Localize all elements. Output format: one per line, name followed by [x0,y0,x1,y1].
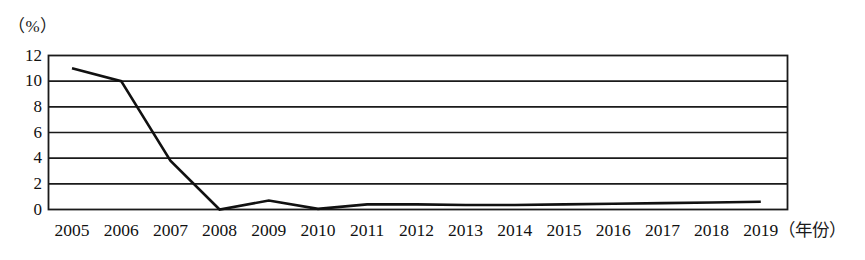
x-axis-tick-label: 2013 [448,222,483,240]
x-axis-tick-label: 2005 [55,222,90,240]
x-axis-tick-labels: 2005200620072008200920102011201220132014… [0,0,865,260]
x-axis-tick-label: 2019 [743,222,778,240]
x-axis-tick-label: 2016 [596,222,631,240]
chart-figure: （%） 024681012 20052006200720082009201020… [0,0,865,260]
x-axis-tick-label: 2007 [153,222,188,240]
x-axis-tick-label: 2015 [547,222,582,240]
x-axis-tick-label: 2006 [104,222,139,240]
x-axis-tick-label: 2014 [497,222,532,240]
x-axis-tick-label: 2010 [301,222,336,240]
x-axis-tick-label: 2008 [202,222,237,240]
x-axis-tick-label: 2012 [399,222,434,240]
x-axis-tick-label: 2011 [350,222,384,240]
x-axis-unit-label: （年份） [778,222,846,240]
x-axis-tick-label: 2018 [694,222,729,240]
x-axis-tick-label: 2017 [645,222,680,240]
x-axis-tick-label: 2009 [251,222,286,240]
